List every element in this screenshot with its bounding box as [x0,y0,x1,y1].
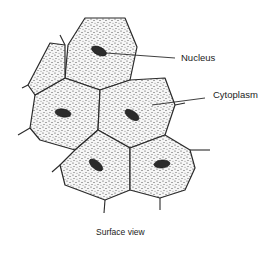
figure-caption: Surface view [96,227,145,237]
cells-layer [28,18,195,200]
cell-bottom-right [130,135,195,198]
nucleus-label: Nucleus [181,52,215,63]
epithelium-diagram [0,0,277,263]
cytoplasm-label: Cytoplasm [213,89,258,100]
cell-top [65,18,137,90]
